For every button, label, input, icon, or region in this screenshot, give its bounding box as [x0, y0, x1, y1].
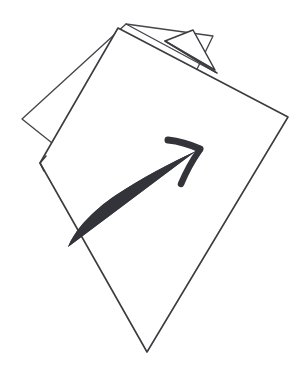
sketch-canvas: [0, 0, 305, 374]
illustration-root: [0, 0, 305, 374]
